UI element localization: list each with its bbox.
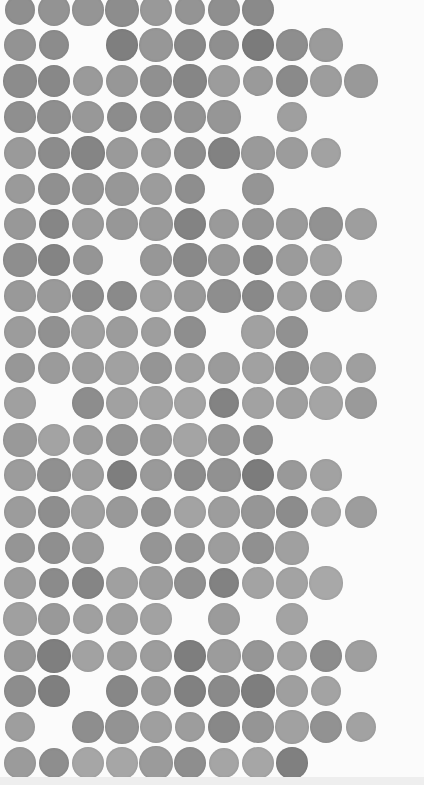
watercolor-dot: [242, 747, 275, 780]
watercolor-dot: [4, 280, 35, 311]
watercolor-dot: [242, 640, 274, 672]
watercolor-dot: [140, 424, 171, 455]
watercolor-dot: [38, 424, 70, 456]
watercolor-dot: [106, 603, 139, 636]
watercolor-dot: [309, 386, 342, 419]
watercolor-dot: [140, 0, 172, 26]
watercolor-dot: [242, 208, 275, 241]
watercolor-dot: [208, 711, 241, 744]
watercolor-dot: [207, 639, 240, 672]
watercolor-dot: [72, 101, 104, 133]
watercolor-dot: [310, 459, 343, 492]
watercolor-dot: [140, 603, 171, 634]
watercolor-dot: [38, 65, 70, 97]
watercolor-dot: [141, 497, 172, 528]
watercolor-dot: [243, 66, 274, 97]
watercolor-dot: [107, 460, 138, 491]
watercolor-dot: [207, 279, 240, 312]
watercolor-dot: [106, 387, 137, 418]
watercolor-dot: [277, 460, 308, 491]
watercolor-dot: [140, 280, 173, 313]
watercolor-dot: [140, 711, 172, 743]
watercolor-dot: [311, 138, 342, 169]
watercolor-dot: [209, 388, 240, 419]
watercolor-dot: [276, 747, 307, 778]
watercolor-dot: [105, 172, 138, 205]
watercolor-dot: [72, 352, 103, 383]
watercolor-dot: [39, 209, 70, 240]
watercolor-dot: [73, 425, 104, 456]
watercolor-dot: [276, 496, 308, 528]
watercolor-dot: [209, 30, 240, 61]
watercolor-dot: [208, 352, 241, 385]
watercolor-dot: [4, 459, 35, 490]
watercolor-dot: [72, 532, 103, 563]
watercolor-dot: [5, 174, 36, 205]
watercolor-dot: [241, 495, 274, 528]
watercolor-dot: [276, 675, 308, 707]
watercolor-dot: [208, 137, 239, 168]
watercolor-dot: [106, 567, 137, 598]
watercolor-dot: [276, 137, 308, 169]
watercolor-dot: [4, 208, 36, 240]
watercolor-dot: [106, 675, 138, 707]
watercolor-dot: [174, 675, 207, 708]
watercolor-dot: [241, 315, 274, 348]
watercolor-dot: [175, 174, 206, 205]
watercolor-dot: [4, 316, 37, 349]
watercolor-dot: [173, 64, 206, 97]
watercolor-dot: [4, 567, 36, 599]
watercolor-dot: [208, 424, 240, 456]
watercolor-dot: [208, 675, 239, 706]
watercolor-dot: [37, 639, 70, 672]
watercolor-dot: [311, 497, 342, 528]
watercolor-dot: [275, 351, 308, 384]
watercolor-dot: [208, 65, 240, 97]
watercolor-dot: [72, 459, 104, 491]
watercolor-dot: [242, 567, 275, 600]
watercolor-dot: [174, 101, 205, 132]
watercolor-dot: [106, 208, 137, 239]
watercolor-dot: [140, 640, 173, 673]
watercolor-dot: [140, 459, 173, 492]
watercolor-dot: [276, 603, 309, 636]
watercolor-dot: [37, 279, 70, 312]
watercolor-dot: [277, 102, 308, 133]
watercolor-dot: [275, 531, 308, 564]
watercolor-dot: [106, 65, 139, 98]
watercolor-dot: [309, 566, 342, 599]
watercolor-dot: [37, 100, 70, 133]
watercolor-dot: [276, 244, 309, 277]
watercolor-dot: [38, 244, 70, 276]
watercolor-dot: [107, 281, 138, 312]
watercolor-dot: [140, 101, 173, 134]
watercolor-dot: [141, 317, 172, 348]
watercolor-dot: [174, 387, 206, 419]
watercolor-dot: [107, 641, 138, 672]
watercolor-dot: [345, 280, 376, 311]
watercolor-dot: [207, 458, 240, 491]
watercolor-dot: [3, 423, 36, 456]
watercolor-dot: [242, 173, 273, 204]
watercolor-dot: [73, 604, 104, 635]
watercolor-dot: [106, 316, 138, 348]
watercolor-dot: [345, 387, 377, 419]
watercolor-dot: [3, 64, 36, 97]
watercolor-dot: [38, 316, 69, 347]
watercolor-dot: [5, 353, 36, 384]
watercolor-dot: [276, 316, 308, 348]
watercolor-dot: [72, 567, 105, 600]
watercolor-dot: [4, 101, 35, 132]
watercolor-dot: [310, 640, 343, 673]
watercolor-dot: [310, 65, 341, 96]
watercolor-dot: [106, 747, 137, 778]
watercolor-dot: [242, 532, 273, 563]
watercolor-dot: [175, 712, 206, 743]
watercolor-dot: [5, 0, 36, 25]
watercolor-dot: [72, 208, 105, 241]
watercolor-dot: [39, 748, 70, 779]
watercolor-dot: [38, 352, 71, 385]
watercolor-dot: [139, 28, 172, 61]
watercolor-dot: [345, 208, 377, 240]
watercolor-dot: [141, 138, 172, 169]
